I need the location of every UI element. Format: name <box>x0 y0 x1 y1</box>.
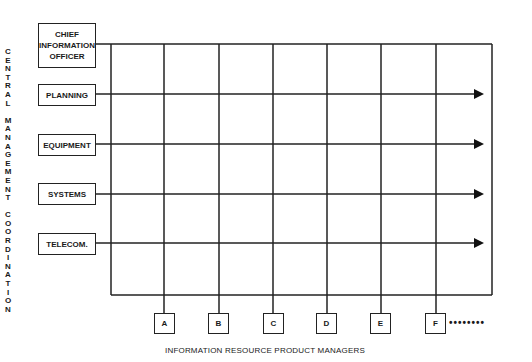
product-manager-b-label: B <box>216 319 222 328</box>
product-manager-c-label: C <box>271 319 277 328</box>
cio-line-3: OFFICER <box>49 51 84 62</box>
systems-label: SYSTEMS <box>48 189 86 200</box>
telecom-box: TELECOM. <box>38 233 96 255</box>
caption-text: INFORMATION RESOURCE PRODUCT MANAGERS <box>165 346 365 355</box>
planning-box: PLANNING <box>38 84 96 106</box>
product-manager-b-box: B <box>208 313 229 334</box>
product-manager-e-label: E <box>378 319 383 328</box>
cio-line-2: INFORMATION <box>39 40 95 51</box>
cio-line-1: CHIEF <box>55 29 79 40</box>
equipment-label: EQUIPMENT <box>43 140 91 151</box>
product-manager-c-box: C <box>263 313 284 334</box>
product-manager-a-label: A <box>162 319 168 328</box>
planning-label: PLANNING <box>46 90 88 101</box>
product-manager-f-label: F <box>433 319 438 328</box>
chief-information-officer-box: CHIEF INFORMATION OFFICER <box>38 23 96 68</box>
product-manager-a-box: A <box>154 313 175 334</box>
equipment-box: EQUIPMENT <box>38 134 96 156</box>
caption: INFORMATION RESOURCE PRODUCT MANAGERS <box>0 346 532 355</box>
telecom-label: TELECOM. <box>46 239 87 250</box>
product-manager-e-box: E <box>370 313 391 334</box>
product-manager-f-box: F <box>425 313 446 334</box>
systems-box: SYSTEMS <box>38 183 96 205</box>
product-manager-d-box: D <box>316 313 337 334</box>
arrowhead-icons <box>474 89 484 248</box>
product-manager-d-label: D <box>324 319 330 328</box>
continuation-dots: •••••••• <box>449 317 485 328</box>
